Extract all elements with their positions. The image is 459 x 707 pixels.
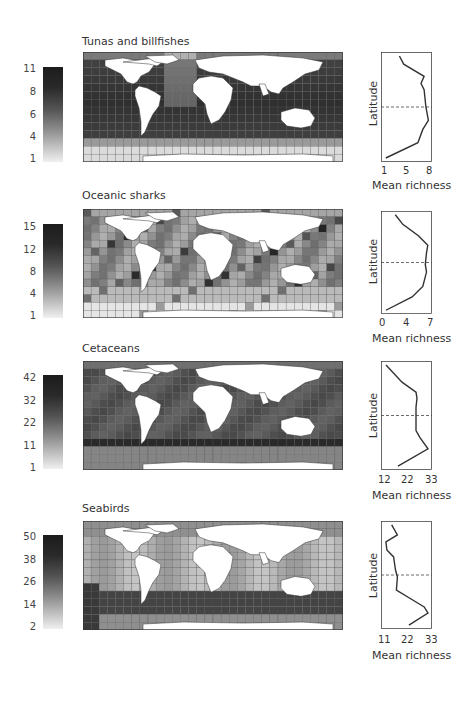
latitude-profile-plot xyxy=(381,52,432,162)
richness-map xyxy=(83,521,343,630)
colorbar-tick: 1 xyxy=(10,463,36,473)
x-tick: 5 xyxy=(403,166,409,176)
x-tick: 33 xyxy=(425,635,438,645)
x-axis-label: Mean richness xyxy=(372,332,451,345)
x-axis-label: Mean richness xyxy=(372,649,451,662)
colorbar-tick: 42 xyxy=(10,373,36,383)
panel-title: Cetaceans xyxy=(82,342,140,355)
colorbar-tick: 14 xyxy=(10,600,36,610)
colorbar-tick: 50 xyxy=(10,532,36,542)
richness-map xyxy=(83,361,343,470)
y-axis-label: Latitude xyxy=(367,69,380,139)
latitude-profile-plot xyxy=(381,521,432,629)
colorbar-tick: 4 xyxy=(10,289,36,299)
colorbar-tick: 8 xyxy=(10,87,36,97)
x-tick: 22 xyxy=(401,635,414,645)
colorbar-tick: 4 xyxy=(10,132,36,142)
colorbar-tick: 12 xyxy=(10,245,36,255)
x-tick: 7 xyxy=(427,318,433,328)
colorbar xyxy=(43,67,63,162)
x-tick: 11 xyxy=(378,635,391,645)
colorbar-tick: 11 xyxy=(10,64,36,74)
x-tick: 12 xyxy=(378,475,391,485)
colorbar-tick: 1 xyxy=(10,154,36,164)
x-axis-label: Mean richness xyxy=(372,489,451,502)
colorbar xyxy=(43,375,63,469)
colorbar xyxy=(43,535,63,629)
colorbar-tick: 26 xyxy=(10,577,36,587)
panel-title: Seabirds xyxy=(82,502,130,515)
x-tick: 0 xyxy=(379,318,385,328)
colorbar-tick: 15 xyxy=(10,222,36,232)
colorbar-tick: 11 xyxy=(10,441,36,451)
latitude-profile-plot xyxy=(381,361,432,470)
y-axis-label: Latitude xyxy=(367,227,380,297)
x-tick: 33 xyxy=(425,475,438,485)
colorbar-tick: 6 xyxy=(10,110,36,120)
x-tick: 22 xyxy=(401,475,414,485)
x-tick: 4 xyxy=(403,318,409,328)
panel-title: Oceanic sharks xyxy=(82,189,166,202)
colorbar-tick: 1 xyxy=(10,311,36,321)
colorbar-tick: 32 xyxy=(10,396,36,406)
colorbar-tick: 38 xyxy=(10,555,36,565)
panel-title: Tunas and billfishes xyxy=(82,35,189,48)
x-tick: 8 xyxy=(426,166,432,176)
colorbar xyxy=(43,224,63,318)
x-axis-label: Mean richness xyxy=(372,179,451,192)
colorbar-tick: 22 xyxy=(10,418,36,428)
richness-map xyxy=(83,52,343,162)
richness-map xyxy=(83,209,343,318)
colorbar-tick: 8 xyxy=(10,267,36,277)
latitude-profile-plot xyxy=(381,211,432,314)
y-axis-label: Latitude xyxy=(367,541,380,611)
x-tick: 1 xyxy=(381,166,387,176)
colorbar-tick: 2 xyxy=(10,622,36,632)
y-axis-label: Latitude xyxy=(367,381,380,451)
